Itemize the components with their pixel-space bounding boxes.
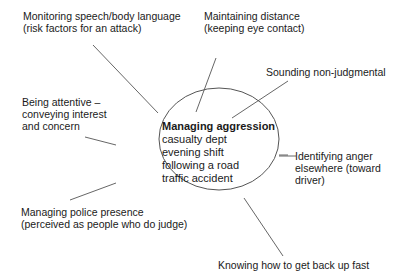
branch-text: Knowing how to get back up fast — [218, 259, 369, 271]
branch-text: (keeping eye contact) — [204, 22, 304, 34]
branch-text: Managing police presence — [21, 206, 187, 218]
center-line: evening shift — [162, 146, 275, 159]
branch-police: Managing police presence (perceived as p… — [21, 206, 187, 230]
branch-text: conveying interest — [22, 108, 107, 120]
branch-anger: Identifying anger elsewhere (toward driv… — [295, 150, 381, 186]
branch-back-up: Knowing how to get back up fast — [218, 259, 369, 271]
branch-text: (risk factors for an attack) — [23, 22, 181, 34]
connector-police — [70, 183, 116, 200]
branch-text: Monitoring speech/body language — [23, 10, 181, 22]
branch-text: and concern — [22, 120, 107, 132]
branch-attentive: Being attentive – conveying interest and… — [22, 96, 107, 132]
connector-distance — [196, 58, 216, 112]
branch-text: Maintaining distance — [204, 10, 304, 22]
center-line: traffic accident — [162, 172, 275, 185]
branch-text: Sounding non-judgmental — [266, 66, 386, 78]
branch-text: driver) — [295, 174, 381, 186]
center-line: casualty dept — [162, 133, 275, 146]
branch-distance: Maintaining distance (keeping eye contac… — [204, 10, 304, 34]
branch-text: Identifying anger — [295, 150, 381, 162]
center-line: following a road — [162, 159, 275, 172]
branch-monitoring: Monitoring speech/body language (risk fa… — [23, 10, 181, 34]
connector-back-up — [244, 198, 283, 256]
branch-text: Being attentive – — [22, 96, 107, 108]
center-topic: Managing aggression casualty dept evenin… — [162, 120, 275, 185]
branch-text: (perceived as people who do judge) — [21, 218, 187, 230]
center-title: Managing aggression — [162, 120, 275, 133]
branch-non-judgmental: Sounding non-judgmental — [266, 66, 386, 78]
connector-attentive — [85, 137, 116, 145]
branch-text: elsewhere (toward — [295, 162, 381, 174]
connector-non-judgmental — [232, 81, 288, 118]
